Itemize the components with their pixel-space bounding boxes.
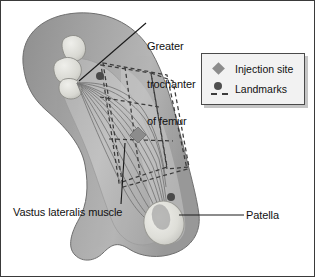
legend-item-injection-site: Injection site [210, 61, 293, 77]
label-greater-trochanter-line3: of femur [147, 115, 196, 128]
dot-dash-icon [210, 81, 232, 97]
label-vastus-lateralis-muscle: Vastus lateralis muscle [13, 206, 122, 219]
label-greater-trochanter-of-femur: Greater trochanter of femur [147, 15, 196, 153]
diamond-icon [210, 61, 232, 77]
label-patella: Patella [246, 209, 279, 222]
legend-label-landmarks: Landmarks [235, 83, 287, 95]
legend-label-injection-site: Injection site [235, 63, 293, 75]
label-greater-trochanter-line1: Greater [147, 40, 196, 53]
legend-box: Injection site Landmarks [201, 53, 305, 105]
label-greater-trochanter-line2: trochanter [147, 78, 196, 91]
landmark-dot-distal [167, 193, 175, 201]
illustration-root: Greater trochanter of femur Vastus later… [0, 0, 315, 277]
legend-item-landmarks: Landmarks [210, 81, 287, 97]
landmark-dot-proximal [96, 72, 104, 80]
